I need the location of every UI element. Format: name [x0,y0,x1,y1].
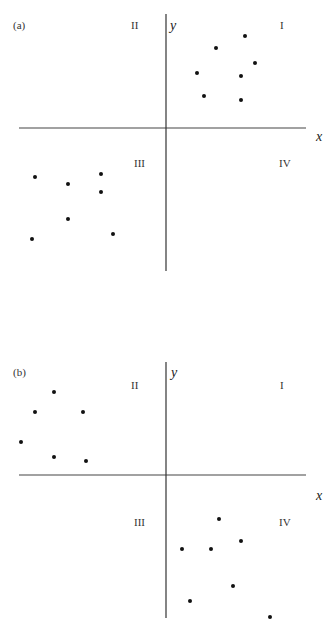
panel-b-quadrant-i: I [280,379,284,391]
data-point [66,217,70,221]
data-point [202,94,206,98]
data-point [52,390,56,394]
data-point [19,440,23,444]
panel-a-quadrant-ii: II [131,19,139,31]
panel-b-label: (b) [13,366,26,379]
panel-a-label: (a) [13,19,26,32]
panel-b-quadrant-iii: III [134,516,145,528]
panel-a-quadrant-i: I [280,19,284,31]
panel-a-quadrant-iv: IV [279,157,291,169]
data-point [111,232,115,236]
data-point [253,61,257,65]
data-point [243,34,247,38]
data-point [268,615,272,619]
data-point [217,517,221,521]
data-point [33,410,37,414]
data-point [231,584,235,588]
data-point [99,172,103,176]
data-point [195,71,199,75]
data-point [214,46,218,50]
data-point [180,547,184,551]
data-point [52,455,56,459]
data-point [209,547,213,551]
panel-b-quadrant-ii: II [131,379,139,391]
scatter-figure: (a) y x II I III IV (b) y x II I III IV [0,0,336,638]
data-point [84,459,88,463]
panel-b: (b) y x II I III IV [13,362,323,619]
panel-b-points [19,390,272,619]
data-point [30,237,34,241]
panel-a-y-label: y [168,18,177,33]
data-point [81,410,85,414]
data-point [188,599,192,603]
data-point [99,190,103,194]
data-point [33,175,37,179]
data-point [239,74,243,78]
panel-a-points [30,34,257,241]
panel-b-y-label: y [169,365,178,380]
panel-b-x-label: x [315,488,323,503]
panel-a-x-label: x [315,129,323,144]
data-point [239,539,243,543]
panel-b-quadrant-iv: IV [279,516,291,528]
data-point [66,182,70,186]
data-point [239,98,243,102]
panel-a: (a) y x II I III IV [13,14,323,271]
panel-a-quadrant-iii: III [134,157,145,169]
